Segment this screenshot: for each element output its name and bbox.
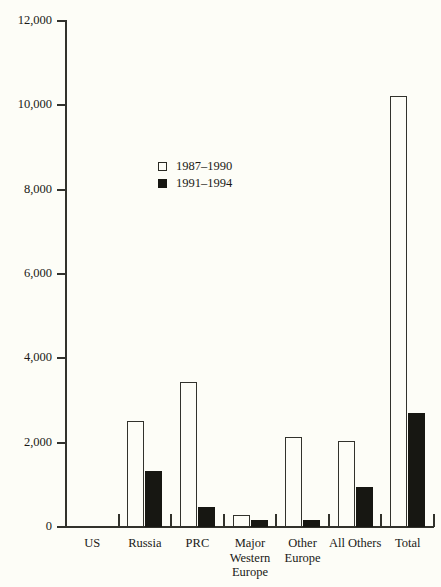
y-axis-tick	[57, 189, 66, 191]
plot-area	[66, 21, 434, 527]
bar-chart: 02,0004,0006,0008,00010,00012,000 USRuss…	[0, 0, 441, 587]
y-axis-label: 12,000	[0, 14, 52, 26]
x-axis-tick	[170, 514, 172, 527]
y-axis-label: 2,000	[0, 436, 52, 448]
bar-all-others-1987-1990	[338, 441, 355, 527]
bar-major-western-europe-1991-1994	[251, 520, 268, 527]
x-axis-label-line: Total	[367, 536, 441, 551]
x-axis-tick	[65, 514, 67, 527]
y-axis-label: 8,000	[0, 183, 52, 195]
bar-other-europe-1987-1990	[285, 437, 302, 527]
bar-major-western-europe-1987-1990	[233, 515, 250, 527]
y-axis-tick	[57, 20, 66, 22]
legend-swatch-open-icon	[158, 162, 167, 171]
bar-total-1987-1990	[390, 96, 407, 527]
bar-other-europe-1991-1994	[303, 520, 320, 527]
chart-legend: 1987–1990 1991–1994	[158, 158, 232, 192]
y-axis-label: 0	[0, 520, 52, 532]
bar-prc-1991-1994	[198, 507, 215, 527]
bar-all-others-1991-1994	[356, 487, 373, 527]
x-axis-tick	[118, 514, 120, 527]
y-axis-label: 6,000	[0, 267, 52, 279]
x-axis-tick	[433, 514, 435, 527]
legend-item-0: 1987–1990	[158, 158, 232, 175]
legend-swatch-filled-icon	[158, 179, 167, 188]
bar-total-1991-1994	[408, 413, 425, 527]
y-axis-tick	[57, 273, 66, 275]
y-axis-tick	[57, 357, 66, 359]
bar-russia-1991-1994	[145, 471, 162, 527]
legend-label-0: 1987–1990	[176, 160, 232, 173]
x-axis-tick	[223, 514, 225, 527]
y-axis-label: 4,000	[0, 351, 52, 363]
x-axis-label-line: Europe	[262, 551, 343, 566]
y-axis-label: 10,000	[0, 98, 52, 110]
legend-label-1: 1991–1994	[176, 177, 232, 190]
y-axis-tick	[57, 104, 66, 106]
bar-prc-1987-1990	[180, 382, 197, 527]
x-axis-tick	[380, 514, 382, 527]
bar-russia-1987-1990	[127, 421, 144, 527]
x-axis-tick	[275, 514, 277, 527]
y-axis-tick	[57, 442, 66, 444]
legend-item-1: 1991–1994	[158, 175, 232, 192]
x-axis-label-line: Europe	[210, 565, 291, 580]
x-axis-tick	[328, 514, 330, 527]
x-axis-label-total: Total	[367, 536, 441, 551]
